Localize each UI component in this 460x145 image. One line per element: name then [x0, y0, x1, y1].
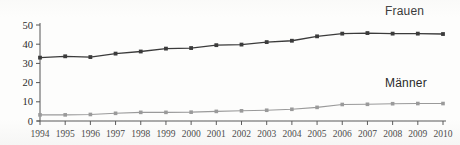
data-point-marker	[340, 103, 344, 107]
data-point-marker	[315, 106, 319, 110]
legend-label-frauen: Frauen	[385, 4, 424, 18]
data-point-marker	[214, 43, 218, 47]
data-point-marker	[139, 111, 143, 115]
data-point-marker	[38, 113, 42, 117]
x-tick-label: 2006	[333, 129, 352, 139]
series-mnner	[38, 102, 445, 117]
line-chart-canvas: 0102030405019941995199619971998199920002…	[0, 0, 460, 145]
data-point-marker	[38, 56, 42, 60]
y-tick-label: 40	[23, 39, 34, 50]
data-point-marker	[89, 113, 93, 117]
y-tick-label: 10	[23, 96, 34, 107]
x-tick-label: 1999	[156, 129, 175, 139]
x-tick-label: 1995	[56, 129, 75, 139]
data-point-marker	[340, 32, 344, 36]
x-tick-label: 1997	[106, 129, 125, 139]
y-tick-label: 0	[28, 116, 33, 127]
data-point-marker	[215, 110, 219, 114]
x-tick-label: 2002	[232, 129, 251, 139]
legend-label-maenner: Männer	[385, 76, 427, 90]
data-point-marker	[391, 102, 395, 106]
y-tick-label: 50	[23, 20, 34, 31]
chart-figure: 0102030405019941995199619971998199920002…	[0, 0, 460, 145]
y-tick-label: 30	[23, 58, 34, 69]
data-point-marker	[366, 103, 370, 107]
data-point-marker	[63, 54, 67, 58]
data-point-marker	[416, 102, 420, 106]
x-tick-label: 2005	[308, 129, 327, 139]
x-tick-label: 2003	[257, 129, 276, 139]
x-tick-label: 2009	[408, 129, 427, 139]
data-point-marker	[416, 32, 420, 36]
data-point-marker	[315, 34, 319, 38]
data-point-marker	[366, 31, 370, 35]
data-point-marker	[164, 111, 168, 115]
x-tick-label: 2008	[383, 129, 402, 139]
data-point-marker	[114, 52, 118, 56]
data-point-marker	[290, 107, 294, 111]
x-tick-label: 1996	[81, 129, 100, 139]
x-tick-label: 1994	[31, 129, 50, 139]
y-tick-label: 20	[23, 77, 34, 88]
data-point-marker	[63, 113, 67, 117]
data-point-marker	[88, 55, 92, 59]
x-tick-label: 2000	[182, 129, 201, 139]
data-point-marker	[114, 112, 118, 116]
data-point-marker	[240, 43, 244, 47]
data-point-marker	[265, 40, 269, 44]
data-point-marker	[441, 32, 445, 36]
data-point-marker	[164, 47, 168, 51]
x-tick-label: 2001	[207, 129, 226, 139]
data-point-marker	[189, 110, 193, 114]
x-tick-label: 1998	[131, 129, 150, 139]
data-point-marker	[139, 50, 143, 54]
data-point-marker	[391, 32, 395, 36]
data-point-marker	[240, 109, 244, 113]
x-tick-label: 2010	[434, 129, 453, 139]
data-point-marker	[441, 102, 445, 106]
x-tick-label: 2007	[358, 129, 377, 139]
x-tick-label: 2004	[282, 129, 301, 139]
data-point-marker	[189, 46, 193, 50]
data-point-marker	[290, 39, 294, 43]
series-frauen	[38, 31, 445, 59]
data-point-marker	[265, 108, 269, 112]
